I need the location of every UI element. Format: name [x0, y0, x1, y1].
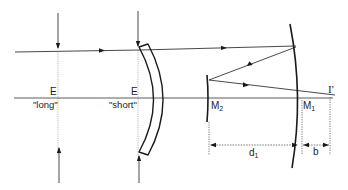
- ray-arrow-to-m1-icon: [221, 46, 227, 50]
- image-point-label: I': [328, 84, 334, 95]
- ray-m2-to-image: [209, 80, 335, 95]
- arrow-down-long-head: [56, 43, 60, 49]
- incoming-ray-segment-1: [15, 50, 140, 52]
- b-label: b: [313, 147, 319, 157]
- d1-label: d1: [249, 148, 258, 159]
- mirror2-label: M2: [211, 101, 223, 112]
- mirror2-subscript: 2: [219, 105, 223, 112]
- entrance-long-note: "long": [33, 100, 58, 110]
- entrance-short-note: "short": [109, 100, 137, 110]
- d1-arrow-left-icon: [210, 143, 216, 147]
- b-arrow-left-icon: [303, 143, 309, 147]
- meniscus-lens: [139, 44, 163, 155]
- incoming-ray-arrow-icon: [99, 48, 105, 53]
- secondary-mirror-m2: [207, 75, 208, 122]
- entrance-short-letter: E: [131, 87, 138, 97]
- ray-m1-to-m2: [209, 47, 296, 80]
- d1-subscript: 1: [255, 152, 259, 159]
- arrow-up-long-head: [57, 147, 61, 153]
- entrance-long-letter: E: [50, 87, 57, 97]
- mirror1-subscript: 1: [311, 105, 315, 112]
- b-arrow-right-icon: [323, 143, 329, 147]
- incoming-ray-segment-2: [140, 46, 296, 50]
- arrow-up-short-head: [137, 155, 141, 161]
- mirror1-label: M1: [303, 101, 315, 112]
